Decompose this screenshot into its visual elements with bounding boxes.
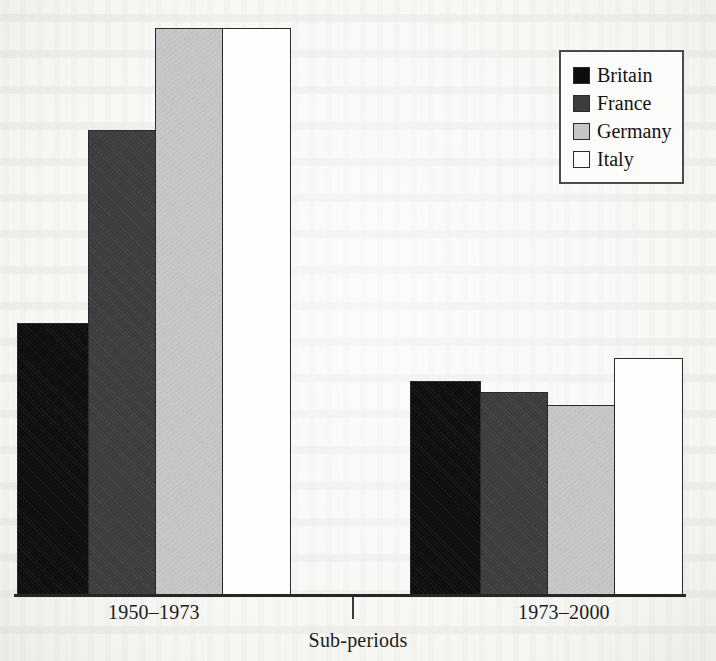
bar-1973_2000-germany [547, 405, 615, 595]
bar-1950_1973-france [88, 130, 156, 595]
bar-1973_2000-italy [614, 358, 683, 595]
legend-entry-britain: Britain [573, 61, 672, 89]
legend-swatch-italy-icon [573, 151, 590, 168]
bar-1950_1973-britain [17, 323, 89, 595]
bar-1950_1973-italy [222, 28, 291, 595]
legend-label: Italy [597, 149, 634, 169]
chart-legend: BritainFranceGermanyItaly [559, 50, 684, 184]
bar-1973_2000-france [480, 392, 548, 595]
x-axis-tick-midpoint [352, 597, 354, 619]
legend-entry-list: BritainFranceGermanyItaly [573, 61, 672, 173]
bar-chart-figure: 1950–1973 1973–2000 Sub-periods BritainF… [0, 0, 716, 661]
legend-label: Britain [597, 65, 653, 85]
x-axis-title: Sub-periods [0, 629, 716, 652]
x-axis-tick-label-1950-1973: 1950–1973 [108, 601, 200, 624]
x-axis-line [14, 594, 686, 597]
bar-1973_2000-britain [410, 381, 481, 595]
legend-label: France [597, 93, 651, 113]
legend-swatch-germany-icon [573, 123, 590, 140]
legend-entry-italy: Italy [573, 145, 672, 173]
legend-swatch-britain-icon [573, 67, 590, 84]
legend-swatch-france-icon [573, 95, 590, 112]
x-axis-tick-label-1973-2000: 1973–2000 [518, 601, 610, 624]
legend-entry-france: France [573, 89, 672, 117]
bar-1950_1973-germany [155, 28, 223, 595]
legend-label: Germany [597, 121, 671, 141]
legend-entry-germany: Germany [573, 117, 672, 145]
